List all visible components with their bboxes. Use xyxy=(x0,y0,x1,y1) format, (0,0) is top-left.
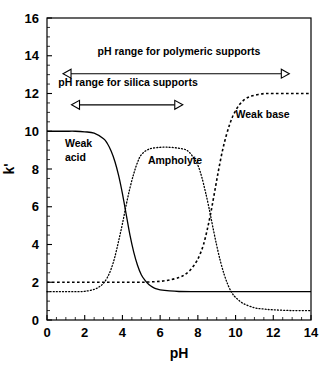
silica-range-label: pH range for silica supports xyxy=(58,76,198,88)
curve-label-weak-acid-line2: acid xyxy=(65,151,86,163)
curve-label-weak-acid: Weak xyxy=(65,137,92,149)
y-tick-label: 6 xyxy=(32,199,39,214)
x-tick-label: 12 xyxy=(266,325,280,340)
y-tick-label: 2 xyxy=(32,275,39,290)
y-tick-label: 8 xyxy=(32,162,39,177)
y-tick-label: 10 xyxy=(25,124,39,139)
x-tick-label: 2 xyxy=(81,325,88,340)
y-tick-label: 14 xyxy=(25,48,40,63)
curve-label-weak-base: Weak base xyxy=(236,108,290,120)
x-tick-label: 14 xyxy=(304,325,319,340)
chart-figure: 024681012140246810121416pHk'WeakacidAmph… xyxy=(0,0,326,371)
x-axis-title: pH xyxy=(170,345,189,361)
y-axis-title: k' xyxy=(1,163,17,174)
y-tick-label: 12 xyxy=(25,86,39,101)
curve-label-ampholyte: Ampholyte xyxy=(148,154,202,166)
plot-svg: 024681012140246810121416pHk'WeakacidAmph… xyxy=(0,0,326,371)
x-tick-label: 4 xyxy=(119,325,127,340)
x-tick-label: 6 xyxy=(157,325,164,340)
x-tick-label: 10 xyxy=(228,325,242,340)
x-tick-label: 8 xyxy=(194,325,201,340)
x-tick-label: 0 xyxy=(43,325,50,340)
y-tick-label: 16 xyxy=(25,11,39,26)
polymeric-range-label: pH range for polymeric supports xyxy=(98,45,261,57)
y-tick-label: 4 xyxy=(32,237,40,252)
y-tick-label: 0 xyxy=(32,313,39,328)
